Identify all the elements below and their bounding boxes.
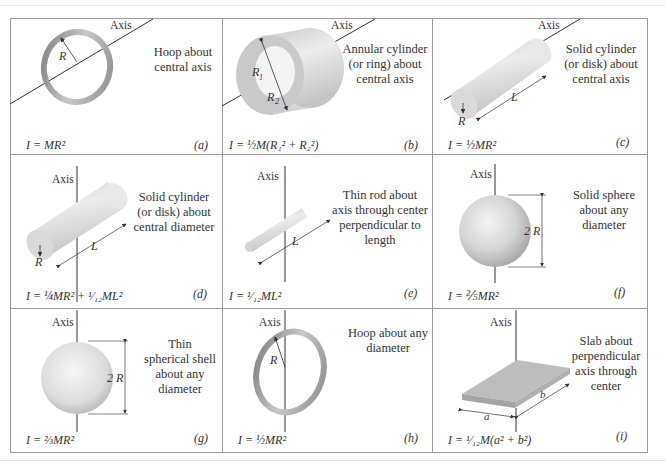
panel-f-tag: (f) <box>614 285 625 300</box>
panel-d-formula: I = ¼MR² + ¹⁄₁₂ML² <box>26 289 122 304</box>
svg-text:2: 2 <box>275 97 279 106</box>
svg-text:1: 1 <box>259 73 263 82</box>
axis-label: Axis <box>110 19 132 31</box>
hoop-central-axis-diagram: R <box>10 19 153 109</box>
panel-c-formula: I = ½MR² <box>448 138 496 153</box>
panel-g-formula: I = ⅔MR² <box>26 433 74 448</box>
panel-d-tag: (d) <box>193 287 207 302</box>
axis-label: Axis <box>259 316 281 328</box>
axis-label: Axis <box>490 316 512 328</box>
svg-text:R: R <box>58 49 67 63</box>
panel-g-description: Thinspherical shellabout anydiameter <box>140 337 220 397</box>
svg-text:R: R <box>34 255 43 269</box>
panel-a-tag: (a) <box>194 138 208 153</box>
slab-diagram: a b <box>462 310 570 432</box>
svg-text:2 R: 2 R <box>524 224 541 238</box>
panel-b-formula: I = ½M(R₁² + R₂²) <box>229 138 318 153</box>
axis-label: Axis <box>538 19 560 31</box>
svg-text:a: a <box>484 410 490 422</box>
svg-text:L: L <box>90 239 98 253</box>
panel-e-tag: (e) <box>404 286 417 301</box>
axis-label: Axis <box>257 170 279 182</box>
panel-c-description: Solid cylinder(or disk) aboutcentral axi… <box>556 42 646 87</box>
panel-e-formula: I = ¹⁄₁₂ML² <box>229 289 281 304</box>
panel-i-formula: I = ¹⁄₁₂M(a² + b²) <box>448 433 531 448</box>
panel-f-formula: I = ⅖MR² <box>448 289 499 304</box>
panel-g-tag: (g) <box>194 431 208 446</box>
axis-label: Axis <box>52 173 74 185</box>
svg-text:b: b <box>540 388 546 400</box>
axis-label: Axis <box>52 316 74 328</box>
solid-cylinder-central-diameter-diagram: R L <box>21 166 132 302</box>
svg-text:R: R <box>269 353 278 367</box>
panel-h-description: Hoop about anydiameter <box>342 326 434 356</box>
panel-e-description: Thin rod aboutaxis through centerperpend… <box>330 188 430 248</box>
panel-d-description: Solid cylinder(or disk) aboutcentral dia… <box>128 190 220 235</box>
svg-text:R: R <box>266 90 275 104</box>
panel-h-tag: (h) <box>404 431 418 446</box>
panel-i-tag: (i) <box>616 429 627 444</box>
panel-c-tag: (c) <box>616 135 629 150</box>
panel-f-description: Solid sphereabout anydiameter <box>568 188 640 233</box>
svg-text:L: L <box>510 90 518 104</box>
panel-i-description: Slab aboutperpendicularaxis throughcente… <box>566 334 646 394</box>
svg-text:2 R: 2 R <box>107 371 124 385</box>
panel-h-formula: I = ½MR² <box>238 433 286 448</box>
hoop-diameter-diagram: R <box>246 310 334 432</box>
panel-b-tag: (b) <box>404 138 418 153</box>
thin-spherical-shell-diagram: 2 R <box>41 310 128 432</box>
svg-text:L: L <box>291 234 299 248</box>
axis-label: Axis <box>331 19 353 31</box>
thin-rod-diagram: L <box>245 166 330 282</box>
axis-label: Axis <box>470 168 492 180</box>
svg-text:R: R <box>457 114 466 128</box>
solid-sphere-diagram: 2 R <box>459 164 546 283</box>
panel-a-formula: I = MR² <box>26 138 65 153</box>
panel-a-description: Hoop aboutcentral axis <box>148 45 218 75</box>
panel-b-description: Annular cylinder(or ring) aboutcentral a… <box>340 42 430 87</box>
